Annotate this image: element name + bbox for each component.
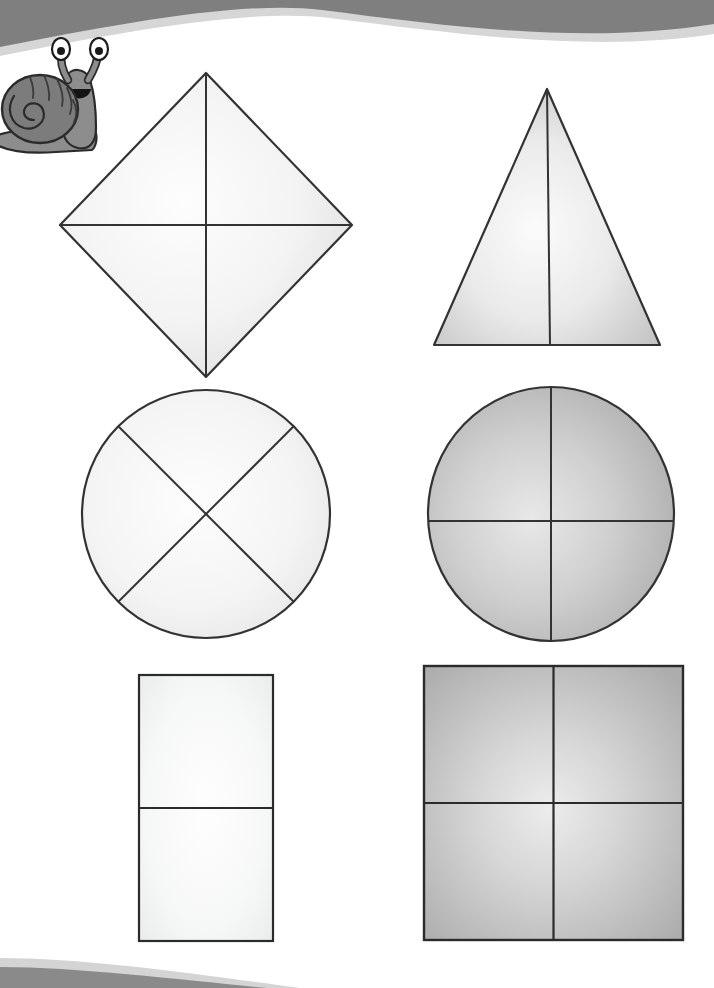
shape-square[interactable] — [424, 666, 683, 940]
shape-rectangle[interactable] — [139, 675, 273, 941]
worksheet-page — [0, 0, 714, 988]
shape-circle-diagonal[interactable] — [82, 390, 330, 638]
shapes-container — [0, 0, 714, 988]
shape-triangle[interactable] — [434, 89, 660, 345]
shape-circle-cross[interactable] — [428, 387, 674, 641]
shape-rhombus[interactable] — [60, 73, 352, 377]
